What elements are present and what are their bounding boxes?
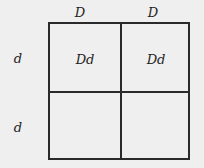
- cell-r1-c2: Dd: [121, 53, 191, 67]
- row-header-2: d: [8, 121, 28, 135]
- row-header-1: d: [8, 52, 28, 66]
- cell-r1-c1: Dd: [50, 53, 120, 67]
- column-header-1: D: [70, 6, 90, 20]
- punnett-grid: Dd Dd: [48, 22, 190, 160]
- column-header-2: D: [143, 6, 163, 20]
- grid-divider-horizontal: [50, 91, 188, 93]
